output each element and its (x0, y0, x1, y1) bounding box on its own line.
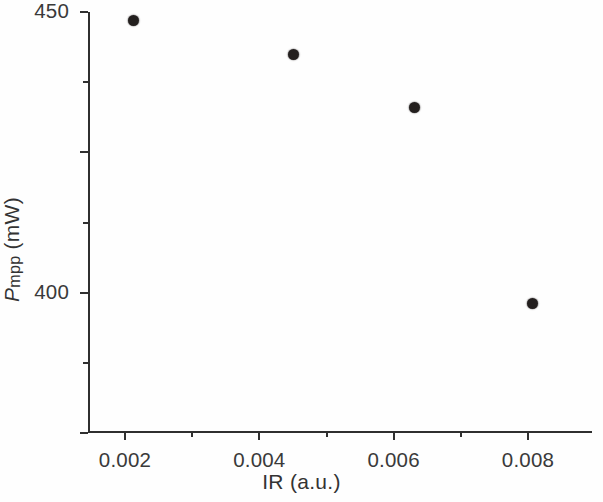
x-tick-major (258, 431, 260, 440)
x-tick-minor (326, 431, 328, 437)
y-axis-title: Pmpp (mW) (0, 150, 32, 350)
y-axis-line (88, 12, 90, 433)
plot-area: 300350400450 0.0020.0040.0060.008 (88, 12, 592, 433)
x-tick-major (124, 431, 126, 440)
x-tick-major (527, 431, 529, 440)
y-axis-title-symbol: P (0, 288, 23, 302)
x-tick-label: 0.004 (233, 448, 285, 472)
y-tick-minor (83, 81, 88, 83)
x-tick-minor (191, 431, 193, 437)
data-point (288, 49, 299, 60)
data-point (527, 298, 538, 309)
y-tick-label: 400 (34, 280, 69, 304)
x-tick-label: 0.008 (502, 448, 554, 472)
y-tick-minor (83, 362, 88, 364)
y-tick-major: 350 (80, 292, 88, 294)
y-tick-major: 400 (80, 151, 88, 153)
y-tick-minor (83, 222, 88, 224)
data-point (409, 102, 420, 113)
y-tick-major: 450 (80, 11, 88, 13)
y-axis-title-subscript: mpp (6, 256, 23, 288)
y-tick-major: 300 (80, 432, 88, 434)
x-tick-label: 0.006 (368, 448, 420, 472)
x-tick-label: 0.002 (99, 448, 151, 472)
x-tick-minor (460, 431, 462, 437)
x-axis-title: IR (a.u.) (0, 470, 603, 494)
x-axis-line (88, 431, 592, 433)
scatter-plot-figure: 300350400450 0.0020.0040.0060.008 Pmpp (… (0, 0, 603, 502)
x-tick-major (393, 431, 395, 440)
y-tick-label: 450 (34, 0, 69, 23)
data-point (128, 15, 139, 26)
y-axis-title-unit: (mW) (0, 198, 23, 257)
